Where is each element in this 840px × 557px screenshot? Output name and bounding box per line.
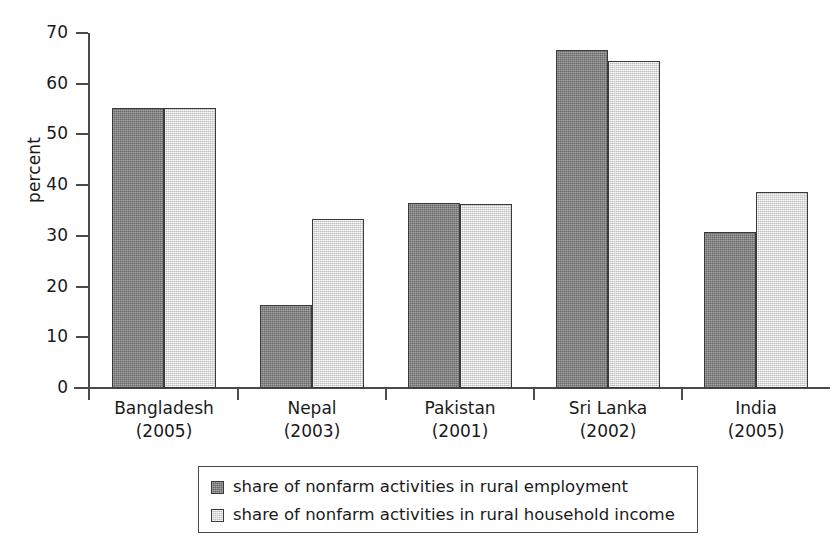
legend-item-1[interactable]: share of nonfarm activities in rural hou…	[211, 502, 697, 528]
y-axis-tick-label: 60	[14, 75, 68, 92]
bar-bangladesh-series-0	[112, 108, 164, 388]
y-axis-tick	[76, 83, 88, 85]
category-name: India	[666, 397, 840, 420]
bar-nepal-series-0	[260, 305, 312, 388]
bar-pakistan-series-0	[408, 203, 460, 388]
legend-item-0[interactable]: share of nonfarm activities in rural emp…	[211, 474, 697, 500]
bar-sri-lanka-series-1	[608, 61, 660, 388]
chart-legend: share of nonfarm activities in rural emp…	[198, 466, 698, 533]
legend-item-label: share of nonfarm activities in rural hou…	[233, 507, 675, 524]
plot-area	[90, 33, 830, 388]
y-axis-tick-label: 50	[14, 125, 68, 142]
bar-nepal-series-1	[312, 219, 364, 388]
category-label-india: India(2005)	[666, 397, 840, 443]
y-axis-tick-label: 70	[14, 24, 68, 41]
bar-india-series-1	[756, 192, 808, 388]
y-axis-tick-label: 0	[14, 379, 68, 396]
bar-sri-lanka-series-0	[556, 50, 608, 388]
light-gray-swatch	[211, 509, 224, 522]
y-axis-tick-label: 40	[14, 176, 68, 193]
legend-item-label: share of nonfarm activities in rural emp…	[233, 479, 628, 496]
y-axis-tick	[76, 387, 88, 389]
bar-pakistan-series-1	[460, 204, 512, 388]
y-axis-tick-label: 30	[14, 227, 68, 244]
y-axis-tick-label: 20	[14, 278, 68, 295]
bar-bangladesh-series-1	[164, 108, 216, 388]
bar-india-series-0	[704, 232, 756, 388]
y-axis-tick-label: 10	[14, 328, 68, 345]
y-axis-tick	[76, 235, 88, 237]
y-axis-tick	[76, 184, 88, 186]
y-axis-tick	[76, 32, 88, 34]
y-axis-tick	[76, 336, 88, 338]
category-year: (2005)	[666, 420, 840, 443]
y-axis-tick	[76, 133, 88, 135]
y-axis-tick	[76, 286, 88, 288]
dark-gray-swatch	[211, 481, 224, 494]
bar-chart: percent 010203040506070 Bangladesh(2005)…	[0, 0, 840, 557]
